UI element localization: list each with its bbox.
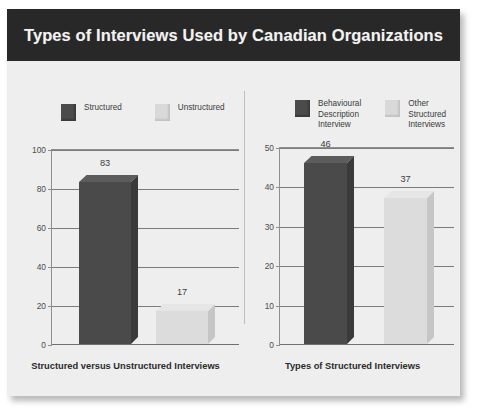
bar-behavioural-description-interview: 46: [304, 163, 347, 344]
slide-card: Types of Interviews Used by Canadian Org…: [7, 9, 460, 396]
y-tick-label: 0: [41, 340, 46, 350]
y-tick-label: 80: [37, 184, 46, 194]
y-tick: [48, 150, 52, 151]
legend-right: Behavioural Description Interview Other …: [295, 99, 446, 131]
bar-front-face: [384, 198, 427, 344]
plot-area-left: 0 20 40 60 80 100 83 17: [51, 149, 239, 345]
y-tick: [48, 228, 52, 229]
title-bar: Types of Interviews Used by Canadian Org…: [7, 9, 460, 61]
bar-other-structured-interviews: 37: [384, 198, 427, 344]
plot-area-right: 0 10 20 30 40 50 46 37: [279, 147, 454, 345]
y-tick-label: 40: [37, 262, 46, 272]
chart-panel-left: Structured Unstructured: [7, 61, 244, 396]
y-tick-label: 60: [37, 223, 46, 233]
bar-top-face: [304, 156, 355, 163]
y-tick: [276, 306, 280, 307]
y-tick: [276, 266, 280, 267]
y-tick-label: 10: [265, 301, 274, 311]
legend-swatch-icon: [385, 100, 400, 117]
y-tick-label: 50: [265, 143, 274, 153]
bar-top-face: [384, 191, 435, 198]
x-axis-caption-right: Types of Structured Interviews: [245, 361, 460, 371]
bar-front-face: [304, 163, 347, 344]
chart-panel-right: Behavioural Description Interview Other …: [245, 61, 460, 396]
bar-side-face: [131, 175, 138, 344]
legend-item: Behavioural Description Interview: [295, 99, 361, 131]
y-tick: [276, 148, 280, 149]
y-tick: [276, 227, 280, 228]
bar-structured: 83: [79, 182, 131, 344]
bar-value-label: 46: [320, 139, 330, 149]
legend-label: Structured: [84, 103, 122, 114]
legend-swatch-icon: [155, 104, 170, 121]
legend-left: Structured Unstructured: [61, 103, 225, 121]
y-tick-label: 0: [269, 340, 274, 350]
y-tick-label: 30: [265, 222, 274, 232]
y-tick: [48, 345, 52, 346]
bar-front-face: [79, 182, 131, 344]
y-tick-label: 20: [265, 261, 274, 271]
bar-unstructured: 17: [156, 311, 208, 344]
bar-value-label: 37: [400, 174, 410, 184]
x-axis-line: [280, 344, 454, 345]
y-tick-label: 40: [265, 182, 274, 192]
y-tick: [276, 187, 280, 188]
x-axis-caption-left: Structured versus Unstructured Interview…: [7, 361, 244, 371]
legend-item: Unstructured: [155, 103, 225, 121]
bar-value-label: 83: [100, 158, 110, 168]
y-tick: [48, 267, 52, 268]
x-axis-line: [52, 344, 239, 345]
y-tick: [48, 189, 52, 190]
charts-body: Structured Unstructured: [7, 61, 460, 396]
y-tick: [48, 306, 52, 307]
bar-top-face: [79, 175, 139, 182]
legend-item: Structured: [61, 103, 122, 121]
page-title: Types of Interviews Used by Canadian Org…: [24, 26, 443, 45]
y-tick-label: 20: [37, 301, 46, 311]
legend-item: Other Structured Interviews: [385, 99, 446, 131]
y-tick-label: 100: [32, 145, 46, 155]
y-tick: [276, 345, 280, 346]
bar-side-face: [347, 156, 354, 344]
bar-top-face: [156, 304, 216, 311]
gridline: [280, 148, 454, 149]
legend-swatch-icon: [295, 100, 310, 117]
legend-swatch-icon: [61, 104, 76, 121]
gridline: [52, 150, 239, 151]
bar-value-label: 17: [177, 287, 187, 297]
bar-side-face: [427, 191, 434, 344]
legend-label: Other Structured Interviews: [408, 99, 446, 131]
bar-front-face: [156, 311, 208, 344]
legend-label: Behavioural Description Interview: [318, 99, 361, 131]
legend-label: Unstructured: [178, 103, 225, 114]
